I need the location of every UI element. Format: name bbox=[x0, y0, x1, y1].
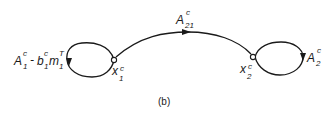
figure-caption: (b) bbox=[158, 96, 170, 107]
label-text: b bbox=[37, 54, 44, 68]
node-x1 bbox=[111, 57, 116, 62]
arrow-down-icon bbox=[300, 53, 306, 61]
label-sup: c bbox=[23, 49, 27, 58]
label-text: x bbox=[111, 64, 119, 78]
node-x2 bbox=[250, 54, 255, 59]
label-sub: 1 bbox=[119, 74, 123, 83]
label-sup: c bbox=[248, 62, 252, 71]
label-text: A bbox=[175, 13, 184, 27]
label-sub: 1 bbox=[44, 62, 48, 71]
label-text: A bbox=[306, 51, 315, 65]
label-sub: 21 bbox=[184, 21, 194, 30]
label-sup: c bbox=[186, 8, 190, 17]
label-node-x1: x c 1 bbox=[111, 64, 124, 83]
label-sub: 1 bbox=[23, 62, 27, 71]
label-sup: T bbox=[59, 49, 65, 58]
label-sub: 1 bbox=[59, 62, 63, 71]
label-text: m bbox=[49, 54, 59, 68]
label-loop-x1: A c 1 - b c 1 m T 1 bbox=[13, 49, 65, 71]
self-loop-x1 bbox=[66, 43, 114, 77]
label-arc: A c 21 bbox=[175, 8, 194, 30]
label-loop-x2: A c 2 bbox=[306, 46, 321, 68]
self-loop-x2 bbox=[255, 42, 306, 75]
label-node-x2: x c 2 bbox=[239, 62, 252, 81]
label-text: A bbox=[13, 54, 22, 68]
label-sup: c bbox=[44, 49, 48, 58]
label-sub: 2 bbox=[315, 59, 321, 68]
signal-flow-diagram: A c 1 - b c 1 m T 1 A c 21 A c 2 x c 1 x… bbox=[0, 0, 335, 120]
label-sup: c bbox=[120, 64, 124, 73]
edge-x1-to-x2 bbox=[116, 29, 251, 57]
label-minus: - bbox=[30, 53, 34, 67]
label-sup: c bbox=[317, 46, 321, 55]
label-text: x bbox=[239, 62, 247, 76]
label-sub: 2 bbox=[246, 72, 252, 81]
